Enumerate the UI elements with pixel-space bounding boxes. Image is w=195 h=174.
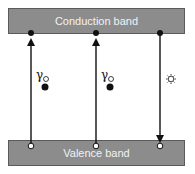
svg-text:γ: γ: [101, 68, 108, 82]
svg-text:γ: γ: [36, 68, 43, 82]
hole-dot: [157, 143, 163, 149]
arrow-up-icon: [27, 38, 35, 46]
absorption-transition-1: [27, 30, 35, 149]
light-emission-icon: [166, 74, 176, 84]
emission-transition: [156, 30, 164, 149]
electron-dot: [28, 30, 34, 36]
photon-absorption-icon: γ: [36, 68, 49, 91]
electron-dot: [93, 30, 99, 36]
absorption-transition-2: [92, 30, 100, 149]
transition-arrows: γ γ: [0, 0, 195, 174]
photon-absorption-icon: γ: [101, 68, 114, 91]
arrow-up-icon: [92, 38, 100, 46]
hole-dot: [28, 143, 34, 149]
electron-dot: [157, 30, 163, 36]
hole-dot: [93, 143, 99, 149]
arrow-down-icon: [156, 135, 164, 143]
